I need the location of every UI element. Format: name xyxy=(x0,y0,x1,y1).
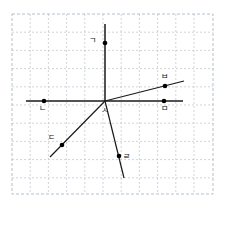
label-r: ㄹ xyxy=(123,152,130,161)
ray-to-c xyxy=(50,101,105,157)
geometry-figure: ㄱㄴㄷㄹㅁㅂㅅ xyxy=(0,0,229,234)
ray-to-b xyxy=(105,81,184,101)
point-r xyxy=(117,154,122,159)
point-m xyxy=(162,99,167,104)
label-n: ㄴ xyxy=(39,104,46,113)
point-b xyxy=(163,84,168,89)
axes xyxy=(26,24,183,101)
point-d xyxy=(60,143,65,148)
point-n xyxy=(42,99,47,104)
label-b: ㅂ xyxy=(161,72,168,81)
label-m: ㅁ xyxy=(161,104,168,113)
label-s: ㅅ xyxy=(101,106,108,115)
figure-canvas: ㄱㄴㄷㄹㅁㅂㅅ xyxy=(0,0,229,234)
rays xyxy=(50,81,184,178)
label-g: ㄱ xyxy=(89,36,96,45)
label-d: ㄷ xyxy=(48,133,55,142)
point-g xyxy=(103,41,108,46)
